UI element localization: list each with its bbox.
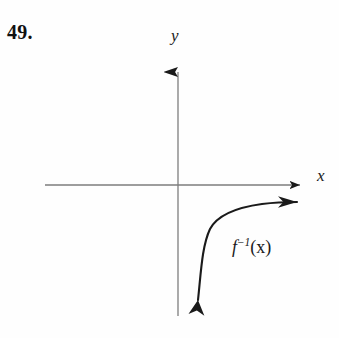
coordinate-graph <box>0 0 339 338</box>
x-axis-label: x <box>317 167 325 184</box>
function-curve-label: f−1(x) <box>232 237 271 256</box>
function-label-exponent: −1 <box>237 236 250 248</box>
figure-container: 49. y x f−1(x) <box>0 0 339 338</box>
y-axis-label: y <box>171 27 179 44</box>
function-label-argument: (x) <box>250 237 271 257</box>
